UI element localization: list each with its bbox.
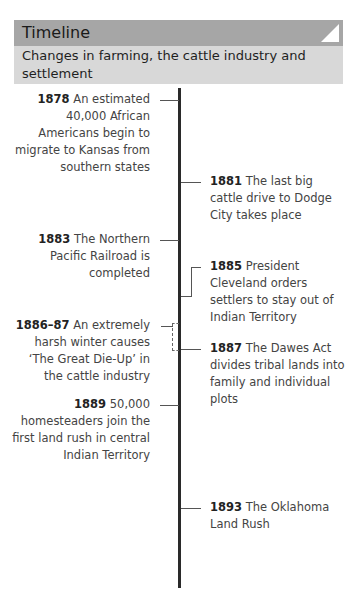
- event-year: 1881: [210, 174, 242, 188]
- connector-1878: [160, 100, 179, 101]
- event-year: 1887: [210, 341, 242, 355]
- event-text: An estimated 40,000 African Americans be…: [15, 92, 150, 174]
- span-bracket-1886-87: [172, 323, 179, 351]
- event-year: 1883: [38, 232, 70, 246]
- event-1886-87: 1886–87 An extremely harsh winter causes…: [10, 317, 150, 385]
- event-year: 1885: [210, 259, 242, 273]
- event-1893: 1893 The Oklahoma Land Rush: [210, 499, 345, 533]
- connector-1889: [160, 405, 179, 406]
- timeline-subheader: Changes in farming, the cattle industry …: [14, 46, 343, 84]
- event-year: 1889: [74, 397, 106, 411]
- event-1885: 1885 President Cleveland orders settlers…: [210, 258, 345, 326]
- event-year: 1878: [38, 92, 70, 106]
- connector-1893: [181, 508, 201, 509]
- event-1889: 1889 50,000 homesteaders join the first …: [10, 396, 150, 464]
- connector-1885-top: [191, 267, 201, 268]
- event-1883: 1883 The Northern Pacific Railroad is co…: [10, 231, 150, 282]
- connector-1887: [181, 349, 201, 350]
- header-title: Timeline: [22, 22, 90, 44]
- connector-1885-riser: [191, 267, 192, 297]
- event-1878: 1878 An estimated 40,000 African America…: [10, 91, 150, 176]
- event-1887: 1887 The Dawes Act divides tribal lands …: [210, 340, 345, 408]
- event-1881: 1881 The last big cattle drive to Dodge …: [210, 173, 345, 224]
- event-year: 1886–87: [16, 318, 70, 332]
- corner-fold-icon: [321, 24, 339, 42]
- event-year: 1893: [210, 500, 242, 514]
- timeline-header: Timeline: [14, 20, 343, 46]
- connector-1881: [181, 182, 201, 183]
- connector-1883: [160, 240, 179, 241]
- subheader-text: Changes in farming, the cattle industry …: [22, 47, 332, 83]
